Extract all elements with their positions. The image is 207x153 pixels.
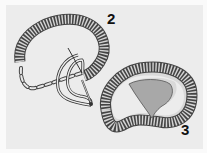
step-2-dashed-path — [21, 68, 82, 88]
diagram-illustration — [0, 0, 207, 153]
step-3-label: 3 — [181, 121, 189, 138]
step-2-label: 2 — [107, 10, 115, 27]
